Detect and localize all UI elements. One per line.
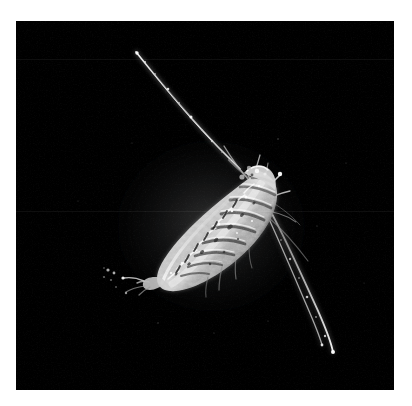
specimen-image-canvas	[16, 21, 394, 390]
specimen-image-frame	[16, 21, 394, 390]
sensor-grain	[16, 21, 394, 390]
page-root	[0, 0, 412, 406]
